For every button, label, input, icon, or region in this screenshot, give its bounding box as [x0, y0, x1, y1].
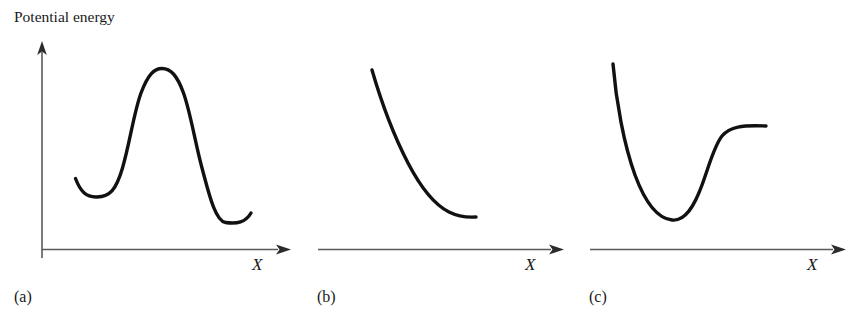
panel-a-group: [37, 41, 291, 258]
panel-b-x-axis-label: X: [525, 256, 535, 273]
panel-b-x-axis-arrowhead: [549, 244, 564, 254]
figure-canvas: [0, 0, 852, 319]
panel-b-curve: [372, 70, 476, 217]
panel-c-curve: [613, 64, 766, 220]
panel-a-x-axis-arrowhead: [276, 244, 291, 254]
y-axis-title: Potential energy: [14, 9, 115, 25]
panel-a-tag: (a): [14, 289, 32, 305]
panel-a-x-axis-label: X: [252, 256, 262, 273]
panel-c-x-axis-arrowhead: [831, 244, 846, 254]
panel-c-group: [590, 64, 846, 255]
potential-energy-figure: Potential energy X (a) X (b) X (c): [0, 0, 852, 319]
panel-b-group: [318, 70, 564, 255]
panel-c-tag: (c): [589, 289, 607, 305]
panel-c-x-axis-label: X: [807, 256, 817, 273]
panel-a-curve: [76, 69, 252, 224]
panel-b-tag: (b): [317, 289, 336, 305]
